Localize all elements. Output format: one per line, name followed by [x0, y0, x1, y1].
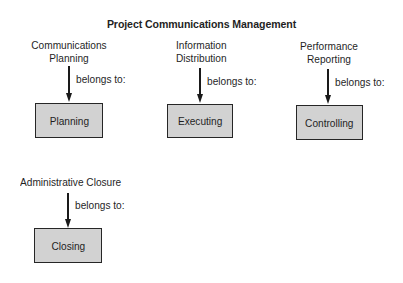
phase-box-planning: Planning [35, 103, 103, 138]
process-label: Communications Planning [23, 39, 115, 64]
process-label: Information Distribution [176, 39, 227, 64]
process-label-line: Communications [23, 39, 115, 52]
relation-label: belongs to: [335, 76, 385, 88]
phase-label: Planning [49, 115, 88, 127]
diagram-title: Project Communications Management [16, 18, 387, 30]
process-label-line: Administrative Closure [20, 176, 121, 189]
process-label-line: Performance [283, 40, 375, 53]
relation-label: belongs to: [76, 73, 126, 85]
phase-box-executing: Executing [167, 104, 233, 138]
phase-box-controlling: Controlling [296, 105, 363, 140]
phase-label: Closing [51, 240, 85, 252]
phase-label: Executing [178, 115, 222, 127]
relation-label: belongs to: [75, 199, 125, 211]
process-label: Performance Reporting [283, 40, 375, 65]
process-label-line: Information [176, 39, 227, 52]
process-label: Administrative Closure [20, 176, 121, 189]
phase-label: Controlling [305, 117, 353, 129]
process-label-line: Planning [23, 52, 115, 65]
process-label-line: Distribution [176, 52, 227, 65]
relation-label: belongs to: [207, 75, 257, 87]
phase-box-closing: Closing [34, 228, 102, 263]
process-label-line: Reporting [283, 53, 375, 66]
